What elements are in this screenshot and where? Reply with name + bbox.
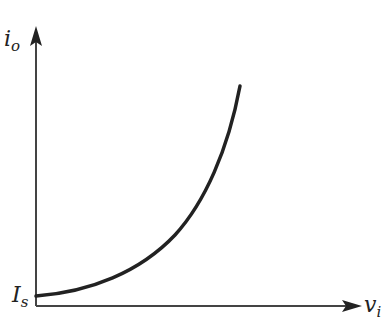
intercept-label: Is bbox=[11, 282, 29, 311]
exponential-curve bbox=[36, 86, 240, 296]
iv-characteristic-diagram: io vi Is bbox=[0, 0, 386, 332]
x-axis-label: vi bbox=[364, 292, 381, 321]
y-axis-label: io bbox=[4, 26, 20, 55]
